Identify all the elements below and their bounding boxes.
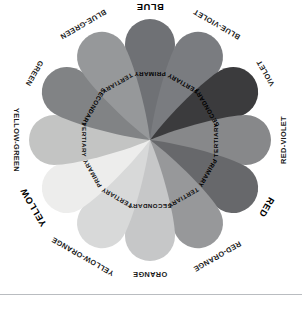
color-wheel-canvas: PRIMARYTERTIARYSECONDARYTERTIARYPRIMARYT…	[0, 0, 302, 311]
horizontal-divider	[0, 294, 302, 295]
hue-label-violet: VIOLET	[254, 59, 276, 88]
petal-role-label: TERTIARY	[212, 122, 219, 157]
hue-label-red-violet: RED-VIOLET	[279, 116, 288, 164]
hue-label-red: RED	[257, 196, 276, 219]
petal-role-label: PRIMARY	[134, 71, 166, 78]
hue-label-blue: BLUE	[136, 2, 163, 12]
hue-label-yellow-green: YELLOW-GREEN	[12, 108, 21, 172]
petal-role-label: SECONDARY	[128, 203, 172, 210]
hue-label-orange: ORANGE	[133, 270, 167, 279]
petal-layer	[29, 19, 271, 261]
petal-role-label: TERTIARY	[81, 123, 88, 158]
hue-label-green: GREEN	[24, 59, 46, 88]
color-wheel-diagram: PRIMARYTERTIARYSECONDARYTERTIARYPRIMARYT…	[0, 0, 302, 311]
